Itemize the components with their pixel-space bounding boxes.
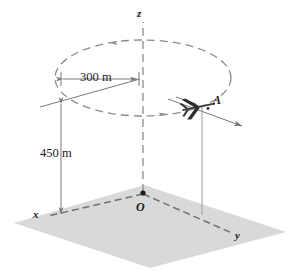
altitude-dimension-label: 450 m xyxy=(40,147,72,160)
point-a-marker xyxy=(207,107,210,110)
origin-point xyxy=(140,190,145,195)
figure-container: z x y O A 300 m 450 m xyxy=(0,0,290,274)
ground-plane-group xyxy=(14,185,286,268)
velocity-vector-group xyxy=(168,97,242,126)
origin-label: O xyxy=(136,201,145,213)
axis-label-x: x xyxy=(33,209,39,220)
axis-label-y: y xyxy=(235,230,240,241)
point-a-label: A xyxy=(213,94,221,106)
ground-plane xyxy=(14,185,286,268)
figure-svg xyxy=(0,0,290,274)
axis-label-z: z xyxy=(137,8,141,19)
airplane-icon xyxy=(179,94,217,121)
radius-dimension-label: 300 m xyxy=(80,71,112,84)
